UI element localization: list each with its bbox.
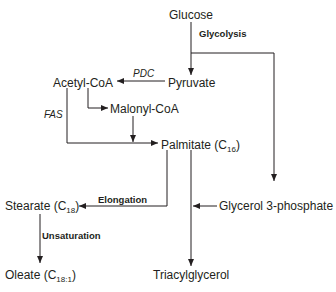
label-pdc: PDC bbox=[133, 68, 155, 79]
palmitate-close: ) bbox=[236, 138, 240, 152]
palmitate-label: Palmitate (C bbox=[161, 138, 227, 152]
label-glycolysis: Glycolysis bbox=[199, 28, 247, 39]
oleate-label: Oleate (C bbox=[5, 268, 57, 282]
node-triacylglycerol: Triacylglycerol bbox=[153, 268, 229, 282]
stearate-close: ) bbox=[75, 199, 79, 213]
node-stearate: Stearate (C18) bbox=[5, 199, 79, 215]
label-fas: FAS bbox=[44, 109, 63, 120]
label-elongation: Elongation bbox=[98, 194, 147, 205]
edge-acetylcoa-malonylcoa bbox=[88, 88, 108, 108]
oleate-close: ) bbox=[72, 268, 76, 282]
node-glycerol-3-phosphate: Glycerol 3-phosphate bbox=[219, 199, 333, 213]
node-pyruvate: Pyruvate bbox=[168, 76, 216, 90]
node-oleate: Oleate (C18:1) bbox=[5, 268, 76, 284]
node-glucose: Glucose bbox=[169, 8, 213, 22]
oleate-subscript: 18:1 bbox=[56, 275, 72, 284]
node-malonyl-coa: Malonyl-CoA bbox=[110, 102, 179, 116]
stearate-label: Stearate (C bbox=[5, 199, 67, 213]
label-unsaturation: Unsaturation bbox=[42, 230, 101, 241]
node-acetyl-coa: Acetyl-CoA bbox=[53, 76, 113, 90]
pathway-diagram: Glucose Pyruvate Acetyl-CoA Malonyl-CoA … bbox=[0, 0, 336, 292]
node-palmitate: Palmitate (C16) bbox=[161, 138, 240, 154]
edge-glucose-glycerol3p bbox=[191, 53, 274, 181]
